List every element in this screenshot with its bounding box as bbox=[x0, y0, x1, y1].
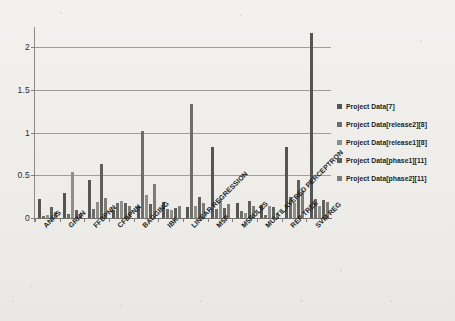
bar bbox=[240, 211, 243, 218]
legend-item-label: Project Data[release1][8] bbox=[346, 139, 427, 146]
bar bbox=[190, 104, 193, 218]
bar bbox=[63, 193, 66, 218]
bar-group bbox=[186, 30, 206, 218]
bar-group bbox=[260, 30, 280, 218]
bar bbox=[38, 199, 41, 218]
x-axis-tick-mark bbox=[183, 218, 184, 222]
legend-item[interactable]: Project Data[release1][8] bbox=[337, 134, 453, 150]
legend-item-label: Project Data[phase1][11] bbox=[346, 157, 427, 164]
bar bbox=[166, 209, 169, 218]
bar bbox=[71, 172, 74, 218]
legend-swatch-icon bbox=[337, 158, 342, 163]
x-axis-tick-mark bbox=[158, 218, 159, 222]
bar-group bbox=[112, 30, 132, 218]
legend-swatch-icon bbox=[337, 176, 342, 181]
bar bbox=[145, 195, 148, 218]
legend-item[interactable]: Project Data[phase2][11] bbox=[337, 170, 453, 186]
y-axis-tick-mark bbox=[31, 90, 35, 91]
x-axis-tick-mark bbox=[306, 218, 307, 222]
x-axis-tick-mark bbox=[282, 218, 283, 222]
bar bbox=[88, 180, 91, 218]
y-axis-tick-mark bbox=[31, 133, 35, 134]
scan-speck bbox=[240, 14, 242, 16]
legend-item-label: Project Data[phase2][11] bbox=[346, 175, 427, 182]
bar-group bbox=[162, 30, 182, 218]
scan-speck bbox=[60, 12, 62, 14]
y-axis-tick-mark bbox=[31, 47, 35, 48]
bar-group bbox=[63, 30, 83, 218]
legend-swatch-icon bbox=[337, 140, 342, 145]
y-axis-tick-label: 1 bbox=[25, 128, 30, 138]
legend-swatch-icon bbox=[337, 104, 342, 109]
legend-item[interactable]: Project Data[7] bbox=[337, 98, 453, 114]
legend-item[interactable]: Project Data[release2][8] bbox=[337, 116, 453, 132]
bar bbox=[116, 203, 119, 218]
chart-figure: 00.511.52 ANFISGRNNFFBPNNCFBPNNBAGGINGIB… bbox=[0, 0, 455, 321]
x-axis-tick-mark bbox=[60, 218, 61, 222]
bar bbox=[236, 203, 239, 218]
bar bbox=[92, 209, 95, 218]
x-axis-tick-mark bbox=[84, 218, 85, 222]
y-axis-tick-label: 0.5 bbox=[18, 170, 30, 180]
bar bbox=[141, 131, 144, 218]
bar bbox=[186, 207, 189, 218]
scan-speck bbox=[420, 40, 422, 42]
bar bbox=[42, 216, 45, 218]
x-axis-tick-mark bbox=[134, 218, 135, 222]
scan-speck bbox=[120, 305, 122, 307]
bar-group bbox=[236, 30, 256, 218]
scan-speck bbox=[340, 270, 342, 272]
bar-group bbox=[137, 30, 157, 218]
scan-speck bbox=[30, 285, 32, 287]
y-axis-tick-label: 0 bbox=[25, 213, 30, 223]
y-axis-tick-label: 1.5 bbox=[18, 85, 30, 95]
legend-item-label: Project Data[release2][8] bbox=[346, 121, 427, 128]
bar bbox=[215, 209, 218, 218]
bar bbox=[100, 164, 103, 218]
scan-speck bbox=[300, 300, 303, 302]
bar bbox=[178, 206, 181, 218]
bar-group bbox=[310, 30, 330, 218]
scan-speck bbox=[390, 300, 392, 302]
bar bbox=[67, 214, 70, 218]
bar-group bbox=[38, 30, 58, 218]
scan-speck bbox=[200, 300, 202, 302]
chart-legend: Project Data[7]Project Data[release2][8]… bbox=[337, 98, 453, 188]
legend-swatch-icon bbox=[337, 122, 342, 127]
x-axis-tick-mark bbox=[232, 218, 233, 222]
plot-area bbox=[35, 30, 331, 218]
x-axis-tick-mark bbox=[109, 218, 110, 222]
y-axis-tick-labels: 00.511.52 bbox=[0, 0, 30, 321]
bar bbox=[310, 33, 313, 218]
legend-item-label: Project Data[7] bbox=[346, 103, 395, 110]
bar bbox=[264, 215, 267, 218]
bar bbox=[96, 202, 99, 218]
x-axis-tick-mark bbox=[35, 218, 36, 222]
bar-group bbox=[88, 30, 108, 218]
scan-speck bbox=[12, 300, 14, 302]
y-axis-tick-label: 2 bbox=[25, 42, 30, 52]
legend-item[interactable]: Project Data[phase1][11] bbox=[337, 152, 453, 168]
x-axis-tick-mark bbox=[208, 218, 209, 222]
y-axis-tick-mark bbox=[31, 175, 35, 176]
x-axis-tick-mark bbox=[257, 218, 258, 222]
